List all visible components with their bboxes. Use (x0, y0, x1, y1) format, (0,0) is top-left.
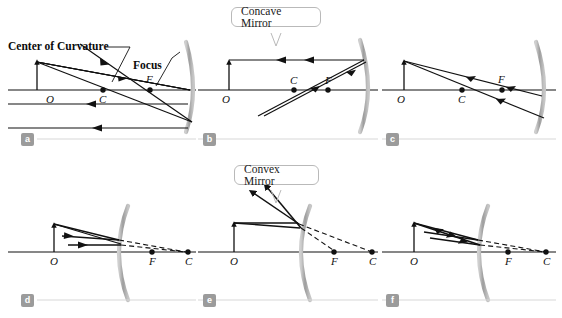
panel-badge-a: a (21, 133, 34, 146)
panel-e-label-O: O (230, 256, 238, 267)
panel-d-point-F (149, 249, 154, 254)
panel-f-label-O: O (410, 256, 418, 267)
panel-d-point-C (185, 249, 190, 254)
panel-e-graphics (198, 186, 378, 300)
panel-f-point-F (505, 249, 510, 254)
panel-f-label-C: C (543, 256, 550, 267)
panel-f-label-F: F (505, 256, 512, 267)
panel-b-label-F: F (325, 75, 332, 86)
panel-e-virtual-ray-1 (299, 224, 372, 252)
callout-concave-mirror-label: Concave Mirror (241, 5, 311, 29)
panel-c-label-C: C (458, 94, 465, 105)
annotation-center-of-curvature: Center of Curvature (8, 41, 109, 53)
panel-badge-e: e (203, 294, 216, 307)
panel-f-ray-incident-2 (414, 223, 480, 245)
panel-b-point-F (325, 87, 330, 92)
panel-a-label-O: O (46, 94, 54, 105)
panel-a-arrowhead-4 (92, 125, 102, 132)
panel-f-mirror (479, 206, 488, 300)
panel-d-arrowhead-1 (64, 232, 74, 239)
panel-c-point-F (499, 87, 504, 92)
panel-b-arrowhead-2 (304, 57, 314, 64)
panel-e-label-C: C (369, 256, 376, 267)
panel-d-graphics (8, 206, 196, 300)
panel-b-label-C: C (290, 75, 297, 86)
panel-e-mirror (301, 206, 310, 300)
panel-b-point-C (291, 87, 296, 92)
annotation-focus: Focus (133, 60, 162, 72)
panel-a-ray-2 (37, 62, 192, 122)
panel-e-label-F: F (331, 256, 338, 267)
panel-f-point-C (543, 249, 548, 254)
panel-a-label-C: C (99, 94, 106, 105)
panel-e-ray-reflected-2 (266, 186, 301, 228)
callout-convex-mirror-label: Convex Mirror (244, 163, 309, 187)
panel-a-label-F: F (146, 74, 153, 85)
panel-d-arrowhead-2 (78, 241, 88, 248)
panel-badge-f: f (386, 294, 399, 307)
panel-b-label-O: O (222, 94, 230, 105)
panel-c-label-O: O (397, 94, 405, 105)
callout-convex-mirror: Convex Mirror (234, 165, 319, 185)
panel-d-ray-incident-2 (54, 224, 121, 244)
panel-d-label-F: F (149, 256, 156, 267)
panel-badge-d: d (21, 294, 34, 307)
panel-e-point-F (331, 249, 336, 254)
panel-e-point-C (369, 249, 374, 254)
panel-c-label-F: F (498, 74, 505, 85)
panel-a-graphics (8, 42, 196, 139)
panel-b-arrowhead-1 (276, 57, 286, 64)
panel-d-label-C: C (185, 256, 192, 267)
panel-a-point-F (147, 87, 152, 92)
ray-diagram-figure: Center of Curvature Focus Concave Mirror… (0, 0, 562, 318)
panel-b-mirror (360, 40, 368, 132)
panel-badge-b: b (203, 133, 216, 146)
panel-c-mirror (536, 42, 544, 132)
panel-f-graphics (382, 206, 556, 300)
panel-d-mirror (119, 206, 128, 300)
panel-b-callout-stem (271, 33, 281, 46)
panel-a-point-C (100, 87, 105, 92)
panel-a-arrowhead-3 (86, 101, 96, 108)
callout-concave-mirror: Concave Mirror (231, 7, 321, 27)
panel-c-graphics (382, 42, 556, 139)
panel-b-graphics (198, 33, 378, 139)
panel-c-point-C (459, 87, 464, 92)
panel-d-label-O: O (50, 256, 58, 267)
panel-a-arrowhead-2 (100, 58, 110, 66)
panel-badge-c: c (386, 133, 399, 146)
panel-b-arrowhead-4 (346, 70, 356, 77)
panel-b-ray-through-C (264, 62, 366, 116)
